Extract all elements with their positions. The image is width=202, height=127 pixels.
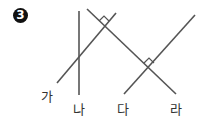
- line-ga: [57, 13, 116, 83]
- right-angle-mark-top: [99, 16, 109, 21]
- right-angle-mark-bottom: [144, 58, 154, 63]
- label-ra: 라: [170, 99, 182, 118]
- label-ga: 가: [41, 86, 53, 105]
- label-da: 다: [117, 99, 129, 118]
- label-na: 나: [73, 99, 85, 118]
